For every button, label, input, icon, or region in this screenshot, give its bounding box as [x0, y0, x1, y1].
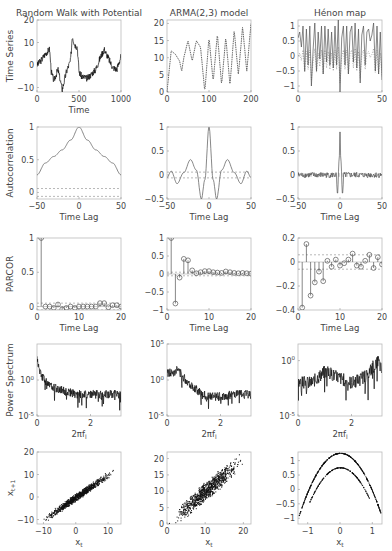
tick-label: −1 — [152, 306, 164, 315]
tick-label: 1 — [290, 22, 295, 31]
series-line — [37, 39, 121, 92]
subplot-r3-c1: 0210510010-52πfl — [148, 339, 251, 441]
axes-frame — [37, 127, 121, 199]
y-axis-label: Power Spectrum — [5, 343, 15, 417]
tick-label: 0 — [73, 527, 78, 536]
plot-area — [298, 132, 382, 193]
tick-label: 1 — [290, 123, 295, 132]
tick-label: −50 — [29, 202, 46, 211]
subplot-r0-c1: 010020020151050ARMA(2,3) model — [154, 8, 259, 104]
subplot-r1-c1: −5005010.50−0.5Time Lag — [145, 123, 257, 222]
plot-area — [167, 236, 253, 306]
tick-label: 0 — [295, 313, 300, 322]
tick-label: 1 — [159, 234, 164, 243]
tick-label: −1 — [302, 527, 314, 536]
tick-label: −10 — [35, 527, 52, 536]
tick-label: 10-5 — [279, 411, 295, 422]
series-line — [167, 366, 251, 409]
y-axis-label: Time Series — [5, 29, 15, 83]
x-axis-label: Time Lag — [320, 323, 360, 333]
scatter-points — [299, 453, 382, 516]
axes-frame — [167, 127, 251, 199]
tick-label: 0 — [76, 202, 81, 211]
plot-area — [298, 242, 384, 310]
tick-label: 5 — [159, 504, 164, 513]
x-axis-label: 2πfl — [201, 429, 217, 440]
tick-label: −0.4 — [276, 306, 295, 315]
plot-area — [37, 236, 123, 312]
tick-label: 20 — [154, 19, 164, 28]
tick-label: 0.5 — [151, 147, 164, 156]
scatter-points — [169, 454, 243, 524]
tick-label: 15 — [154, 471, 164, 480]
tick-label: 0 — [34, 313, 39, 322]
tick-label: 0 — [159, 270, 164, 279]
tick-label: −0.5 — [276, 67, 295, 76]
x-axis-label: 2πfl — [332, 429, 348, 440]
tick-label: 0 — [290, 258, 295, 267]
series-line — [37, 127, 121, 175]
tick-label: 15 — [154, 37, 164, 46]
plot-area — [37, 127, 121, 196]
tick-label: 1 — [29, 123, 34, 132]
tick-label: 1 — [370, 527, 375, 536]
tick-label: 0.2 — [282, 234, 295, 243]
tick-label: 0 — [290, 485, 295, 494]
tick-label: 1 — [159, 123, 164, 132]
axes-frame — [167, 344, 251, 416]
tick-label: 0 — [34, 95, 39, 104]
tick-label: 1 — [290, 457, 295, 466]
tick-label: 2 — [349, 419, 354, 428]
tick-label: 0 — [29, 188, 34, 197]
tick-label: 0.5 — [151, 252, 164, 261]
plot-area — [37, 356, 121, 410]
plot-area — [44, 470, 114, 521]
plot-area — [167, 366, 251, 409]
tick-label: 0.5 — [21, 268, 34, 277]
tick-label: −1 — [283, 82, 295, 91]
tick-label: 50 — [116, 202, 126, 211]
subplot-r3-c0: 0210010-52πflPower Spectrum — [5, 343, 121, 440]
axes-frame — [37, 238, 121, 310]
subplot-r4-c1: 0102020151050xt — [154, 452, 251, 548]
series-line — [298, 356, 382, 400]
x-axis-label: Time Lag — [189, 212, 229, 222]
tick-label: −10 — [17, 84, 34, 93]
tick-label: 0 — [337, 527, 342, 536]
tick-label: 0.5 — [282, 147, 295, 156]
tick-label: 50 — [377, 95, 387, 104]
tick-label: 0 — [164, 419, 169, 428]
tick-label: 0 — [29, 61, 34, 70]
tick-label: 0 — [290, 52, 295, 61]
tick-label: 10-5 — [18, 411, 34, 422]
tick-label: 10 — [74, 313, 84, 322]
x-axis-label: 2πfl — [71, 429, 87, 440]
subplot-r1-c2: −5005010.50−0.5Time Lag — [276, 123, 388, 222]
subplot-title: Hénon map — [314, 8, 366, 18]
tick-label: 2 — [218, 419, 223, 428]
tick-label: 0.5 — [282, 471, 295, 480]
tick-label: 0 — [337, 202, 342, 211]
tick-label: 1000 — [111, 95, 131, 104]
tick-label: 0 — [164, 313, 169, 322]
x-axis-label: Time — [68, 105, 90, 115]
tick-label: 0 — [206, 202, 211, 211]
plot-area — [299, 453, 382, 516]
series-line — [298, 20, 382, 92]
subplot-r4-c2: −10110.50−0.5−1xt — [276, 452, 382, 548]
x-axis-label: Time Lag — [59, 323, 99, 333]
tick-label: 200 — [243, 95, 258, 104]
tick-label: 0 — [159, 520, 164, 529]
tick-label: 10 — [154, 487, 164, 496]
series-line — [167, 128, 251, 200]
tick-label: −0.5 — [145, 195, 164, 204]
plot-area — [167, 128, 251, 200]
tick-label: 0 — [290, 171, 295, 180]
x-axis-label: xt — [205, 537, 213, 548]
tick-label: 5 — [159, 71, 164, 80]
tick-label: 10 — [103, 527, 113, 536]
tick-label: 100 — [150, 375, 164, 386]
subplot-r2-c0: 0102010.50Time LagPARCOR — [5, 234, 126, 333]
tick-label: −10 — [17, 516, 34, 525]
tick-label: 20 — [154, 455, 164, 464]
